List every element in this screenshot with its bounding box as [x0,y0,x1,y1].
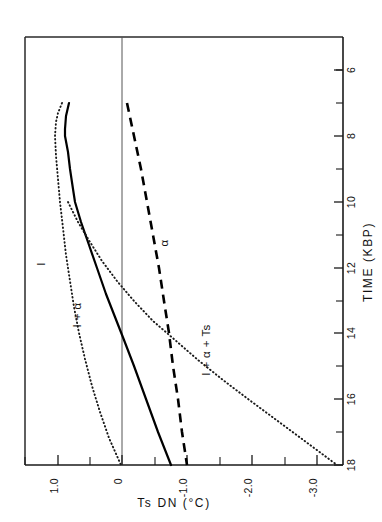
chart-canvas: 6 8 10 12 14 16 18 TIME (KBP) 1.0 0 [0,0,382,522]
curve-label-I-alpha: I + α [71,303,83,328]
series-I-alpha-path [65,103,171,465]
time-tick-label-6: 6 [345,67,357,73]
time-tick-label-12: 12 [345,262,357,274]
time-tick-label-18: 18 [345,459,357,471]
time-axis-ticks [334,70,343,465]
value-tick-label-m3p0: -3.0 [307,478,319,497]
value-tick-label-1p0: 1.0 [48,478,60,494]
time-tick-label-10: 10 [345,196,357,208]
time-axis-tick-labels: 6 8 10 12 14 16 18 [345,67,357,471]
series-alpha-path [127,103,187,465]
time-tick-label-8: 8 [345,133,357,139]
curve-label-I: I [35,262,47,266]
value-axis-tick-labels: 1.0 0 -1.0 -2.0 -3.0 [48,478,319,497]
value-tick-label-m1p0: -1.0 [177,478,189,497]
curve-label-I-alpha-Ts: I + α + Ts [200,324,212,376]
time-axis-title: TIME (KBP) [361,222,375,302]
curve-annotations: I I + α α I + α + Ts [35,239,212,375]
value-axis-title-text: Ts DN (°C) [137,496,210,510]
curve-label-alpha: α [158,239,170,246]
time-tick-label-16: 16 [345,393,357,405]
time-tick-label-14: 14 [345,327,357,339]
value-tick-label-0: 0 [112,478,124,484]
value-tick-label-m2p0: -2.0 [242,478,254,497]
value-axis-title: Ts DN (°C) [137,496,210,510]
series-I-path [55,103,121,465]
plot-frame [25,37,343,465]
figure-container: 6 8 10 12 14 16 18 TIME (KBP) 1.0 0 [0,0,382,522]
